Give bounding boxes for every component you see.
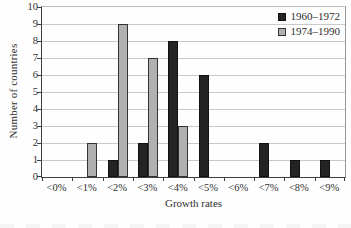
bar-1960-19729 [320,160,330,177]
legend: 1960–19721974–1990 [278,10,341,40]
x-tick-label: <2% [102,181,133,194]
bar-1974-19901 [87,143,97,177]
cut-off-caption-remnant [0,224,351,228]
x-tick-label: <3% [132,181,163,194]
x-tick-label: <4% [162,181,193,194]
x-tick-label: <0% [41,181,72,194]
y-tick-label: 3 [18,120,38,131]
x-tick-label: <5% [193,181,224,194]
x-tick-label: <9% [314,181,345,194]
gridline [42,41,345,42]
y-tick-label: 0 [18,171,38,182]
gridline [42,92,345,93]
y-tick-label: 9 [18,18,38,29]
y-tick-label: 7 [18,52,38,63]
y-tick-label: 1 [18,154,38,165]
legend-item: 1974–1990 [278,25,341,38]
bar-1960-19722 [108,160,118,177]
y-tick-label: 10 [18,1,38,12]
x-tick-label: <6% [223,181,254,194]
bar-1960-19723 [138,143,148,177]
y-tick-label: 4 [18,103,38,114]
bar-1960-19725 [199,75,209,177]
gridline [42,58,345,59]
gridline [42,126,345,127]
y-tick-label: 5 [18,86,38,97]
bar-1960-19728 [290,160,300,177]
legend-swatch-icon [278,28,286,36]
bar-1974-19903 [148,58,158,177]
x-tick-label: <1% [71,181,102,194]
gridline [42,75,345,76]
bar-1960-19724 [168,41,178,177]
bar-1960-19727 [259,143,269,177]
bar-1974-19904 [178,126,188,177]
y-tick-label: 6 [18,69,38,80]
legend-label: 1960–1972 [291,10,341,23]
y-tick-label: 2 [18,137,38,148]
legend-swatch-icon [278,13,286,21]
bar-chart-figure: Number of countries 1960–19721974–1990 G… [0,0,351,228]
legend-label: 1974–1990 [291,25,341,38]
x-tick-label: <7% [253,181,284,194]
bar-1974-19902 [118,24,128,177]
gridline [42,109,345,110]
legend-item: 1960–1972 [278,10,341,23]
x-tick-label: <8% [283,181,314,194]
x-axis-title: Growth rates [42,197,345,209]
y-tick-label: 8 [18,35,38,46]
plot-area: 1960–19721974–1990 [41,6,346,178]
